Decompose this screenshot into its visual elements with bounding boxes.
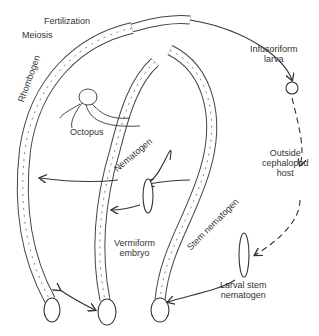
label-infusoriform: Infusoriformlarva xyxy=(250,44,298,64)
arrow-vermiform-to-nematogen xyxy=(112,205,140,210)
vermiform-embryo xyxy=(143,179,153,213)
label-outside-host: Outsidecephalopodhost xyxy=(262,148,309,178)
label-vermiform-embryo: Vermiformembryo xyxy=(114,238,155,258)
label-fertilization: Fertilization xyxy=(44,16,90,26)
stem-nematogen-worm xyxy=(151,50,212,322)
larval-stem-nematogen xyxy=(239,233,249,277)
label-meiosis: Meiosis xyxy=(22,30,53,40)
arrow-to-larval xyxy=(255,200,300,255)
arrow-stem-to-vermiform xyxy=(148,180,190,184)
label-octopus: Octopus xyxy=(70,127,104,137)
infusoriform-larva xyxy=(286,82,298,94)
arrow-between-tails xyxy=(60,290,95,310)
label-larval-stem-nematogen: Larval stemnematogen xyxy=(220,280,267,300)
